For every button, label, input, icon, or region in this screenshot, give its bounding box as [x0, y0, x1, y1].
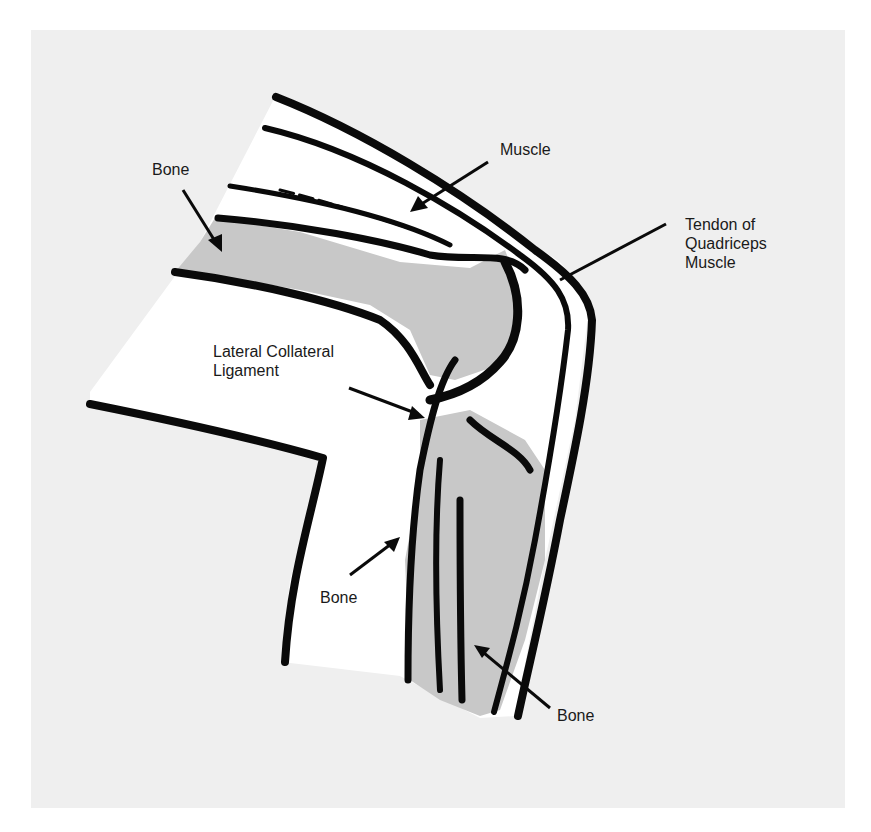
label-tendon-quadriceps: Tendon of Quadriceps Muscle [685, 215, 767, 272]
label-muscle: Muscle [500, 140, 551, 159]
label-bone-tibia: Bone [557, 706, 594, 725]
label-bone-thigh: Bone [152, 160, 189, 179]
arrow-tendon [560, 224, 666, 280]
label-bone-fibula: Bone [320, 588, 357, 607]
label-lateral-collateral-ligament: Lateral Collateral Ligament [213, 342, 334, 380]
knee-anatomy-diagram [0, 0, 871, 832]
tibia-shaft-outline [460, 500, 462, 700]
